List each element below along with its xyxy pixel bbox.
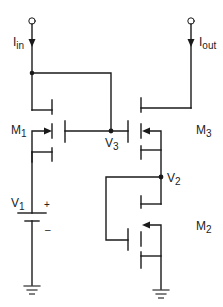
m3-arrow-wire bbox=[149, 131, 161, 177]
label-v3: V3 bbox=[105, 136, 119, 152]
output-terminal-circle-icon bbox=[188, 18, 194, 24]
input-terminal bbox=[29, 18, 35, 24]
m1-arrow-icon bbox=[44, 128, 52, 135]
label-v1-minus: – bbox=[45, 224, 51, 235]
wire-gate-tie bbox=[32, 73, 111, 131]
transistor-m2 bbox=[128, 196, 161, 289]
ground-right-icon bbox=[153, 290, 169, 298]
label-iout: Iout bbox=[199, 35, 216, 51]
ground-left-icon bbox=[24, 286, 40, 294]
label-m3: M3 bbox=[196, 123, 212, 139]
input-terminal-circle-icon bbox=[29, 18, 35, 24]
transistor-m1 bbox=[32, 100, 128, 162]
battery-v1 bbox=[18, 213, 46, 285]
arrow-down-icon bbox=[29, 39, 36, 47]
v3-junction-dot-icon bbox=[109, 129, 114, 134]
wire-v2-to-m2-gate bbox=[106, 177, 161, 240]
m1-arrow-wire bbox=[32, 131, 45, 162]
m3-arrow-icon bbox=[142, 128, 150, 135]
label-iin: Iin bbox=[13, 35, 24, 51]
m2-arrow-wire bbox=[149, 225, 161, 289]
label-v1-plus: + bbox=[44, 199, 50, 210]
output-terminal bbox=[188, 18, 194, 24]
arrow-down-icon bbox=[188, 39, 195, 47]
label-m1: M1 bbox=[11, 123, 27, 139]
transistor-m3 bbox=[128, 98, 191, 177]
current-mirror-circuit: Iin Iout M1 M3 M2 V3 V2 V1 + – bbox=[0, 0, 223, 307]
m2-arrow-icon bbox=[142, 222, 150, 229]
label-m2: M2 bbox=[196, 219, 212, 235]
label-v2: V2 bbox=[167, 171, 181, 187]
label-v1: V1 bbox=[11, 196, 25, 212]
